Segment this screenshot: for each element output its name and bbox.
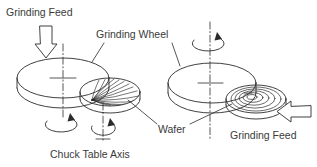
feed-arrow-left-icon bbox=[277, 101, 311, 122]
left-wheel-rotation-arrow bbox=[45, 113, 77, 132]
label-wafer: Wafer bbox=[158, 123, 186, 135]
feed-arrow-down-icon bbox=[35, 26, 57, 58]
leader-wafer-left bbox=[128, 100, 157, 124]
label-chuck-table-axis: Chuck Table Axis bbox=[50, 148, 130, 160]
right-wheel-rotation-arrow bbox=[192, 32, 224, 51]
leader-wafer-right bbox=[190, 104, 232, 124]
right-grinding-wheel bbox=[168, 63, 256, 113]
label-grinding-feed-top: Grinding Feed bbox=[6, 6, 73, 18]
leader-grinding-wheel-left bbox=[92, 43, 104, 62]
left-wafer-hatching bbox=[92, 79, 139, 106]
label-grinding-feed-right: Grinding Feed bbox=[230, 129, 297, 141]
diagram-canvas: Grinding Feed Grinding Wheel Wafer Chuck… bbox=[0, 0, 317, 167]
leader-grinding-wheel-right bbox=[172, 43, 180, 66]
left-chuck-axis bbox=[91, 103, 115, 142]
label-grinding-wheel: Grinding Wheel bbox=[96, 28, 168, 40]
